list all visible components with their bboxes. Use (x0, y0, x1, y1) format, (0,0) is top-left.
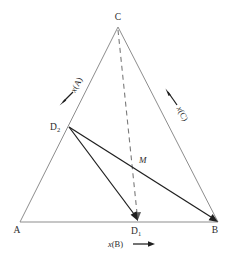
axis-xc-group: x(C) (166, 89, 191, 123)
point-label-m: M (138, 155, 147, 165)
axis-label-xa: x(A) (68, 75, 85, 94)
axis-xa-arrowhead (60, 99, 67, 105)
vertex-label-c: C (115, 12, 121, 22)
point-label-d1-subscript: 1 (138, 230, 141, 237)
tie-segment-d2-d1 (69, 127, 134, 214)
tie-arrowhead-at-b (209, 214, 218, 222)
dashed-line-c-to-d1 (118, 30, 141, 221)
point-label-d2: D2 (50, 122, 60, 133)
ternary-diagram-canvas: A B C D1 D2 M x(A) x(C) x(B) (0, 0, 234, 262)
tie-line-d2-to-b (69, 127, 218, 222)
vertex-label-a: A (14, 225, 21, 235)
axis-xc-arrowhead (166, 89, 171, 97)
axis-label-xb-rest: (B) (112, 239, 124, 249)
point-label-d1: D1 (131, 226, 141, 237)
axis-xb-group: x(B) (107, 239, 155, 249)
ternary-diagram-figure: A B C D1 D2 M x(A) x(C) x(B) (0, 0, 234, 262)
triangle-edge-cb (118, 27, 218, 222)
vertex-label-b: B (212, 225, 218, 235)
point-label-d2-subscript: 2 (57, 126, 60, 133)
tie-segment-d2-b (69, 127, 211, 217)
axis-label-xb: x(B) (107, 239, 123, 249)
tie-line-d2-to-d1 (69, 127, 138, 221)
axis-xb-arrowhead (148, 241, 155, 247)
triangle-edge-ac (20, 27, 118, 222)
axis-label-xc: x(C) (174, 104, 190, 123)
